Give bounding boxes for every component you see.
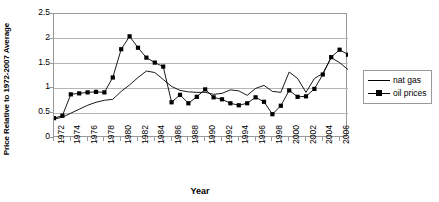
x-tick-label: 1996 xyxy=(258,125,267,144)
legend-label-nat-gas: nat gas xyxy=(391,75,421,86)
chart-legend: nat gas oil prices xyxy=(363,70,432,104)
data-point-marker xyxy=(245,101,249,105)
legend-item-oil-prices: oil prices xyxy=(367,87,427,100)
data-point-marker xyxy=(54,116,56,120)
x-tick-mark xyxy=(120,137,121,141)
legend-key-square-marker-icon xyxy=(367,88,391,99)
x-tick-mark xyxy=(305,137,306,141)
data-point-marker xyxy=(254,95,258,99)
x-axis-title: Year xyxy=(53,186,347,197)
data-point-marker xyxy=(312,87,316,91)
data-point-marker xyxy=(77,91,81,95)
x-tick-mark xyxy=(103,137,104,141)
y-axis-ticks: 00.511.522.5 xyxy=(0,0,50,202)
x-tick-mark xyxy=(229,137,230,141)
x-tick-mark xyxy=(213,137,214,141)
x-tick-mark xyxy=(221,137,222,141)
x-tick-mark xyxy=(238,137,239,141)
x-tick-label: 1978 xyxy=(107,125,116,144)
x-tick-mark xyxy=(204,137,205,141)
x-tick-mark xyxy=(313,137,314,141)
x-tick-label: 1986 xyxy=(174,125,183,144)
legend-label-oil-prices: oil prices xyxy=(391,88,427,99)
data-point-marker xyxy=(212,95,216,99)
x-tick-mark xyxy=(330,137,331,141)
x-tick-mark xyxy=(187,137,188,141)
x-tick-label: 1982 xyxy=(141,125,150,144)
plot-svg xyxy=(54,14,348,138)
data-point-marker xyxy=(102,90,106,94)
data-point-marker xyxy=(338,48,342,52)
y-tick-label: 1 xyxy=(4,82,50,91)
data-point-marker xyxy=(321,72,325,76)
y-tick-label: 0.5 xyxy=(4,107,50,116)
x-tick-label: 1992 xyxy=(225,125,234,144)
series-line-oil-prices xyxy=(54,36,348,118)
data-point-marker xyxy=(186,101,190,105)
data-point-marker xyxy=(228,101,232,105)
x-tick-label: 2004 xyxy=(325,125,334,144)
x-tick-mark xyxy=(347,137,348,141)
x-tick-mark xyxy=(87,137,88,141)
x-tick-mark xyxy=(61,137,62,141)
x-tick-mark xyxy=(145,137,146,141)
data-point-marker xyxy=(86,90,90,94)
x-tick-label: 1990 xyxy=(208,125,217,144)
x-tick-mark xyxy=(263,137,264,141)
x-tick-mark xyxy=(255,137,256,141)
data-point-marker xyxy=(161,64,165,68)
y-tick-label: 2.5 xyxy=(4,8,50,17)
x-tick-label: 1988 xyxy=(191,125,200,144)
x-tick-mark xyxy=(288,137,289,141)
data-point-marker xyxy=(304,94,308,98)
data-point-marker xyxy=(119,47,123,51)
data-point-marker xyxy=(346,53,348,57)
x-tick-mark xyxy=(78,137,79,141)
x-tick-mark xyxy=(95,137,96,141)
data-point-marker xyxy=(170,100,174,104)
data-point-marker xyxy=(237,103,241,107)
x-tick-mark xyxy=(129,137,130,141)
data-point-marker xyxy=(329,55,333,59)
legend-key-line-icon xyxy=(367,75,391,86)
data-point-marker xyxy=(153,61,157,65)
data-point-marker xyxy=(195,95,199,99)
x-tick-mark xyxy=(339,137,340,141)
plot-area xyxy=(53,13,347,137)
data-point-marker xyxy=(287,88,291,92)
x-tick-label: 1998 xyxy=(275,125,284,144)
x-tick-mark xyxy=(53,137,54,141)
data-point-marker xyxy=(144,56,148,60)
data-point-marker xyxy=(203,87,207,91)
x-tick-mark xyxy=(112,137,113,141)
x-tick-mark xyxy=(246,137,247,141)
x-tick-mark xyxy=(179,137,180,141)
x-tick-label: 1974 xyxy=(73,125,82,144)
x-tick-label: 1980 xyxy=(124,125,133,144)
x-tick-mark xyxy=(322,137,323,141)
x-tick-mark xyxy=(171,137,172,141)
data-point-marker xyxy=(60,114,64,118)
x-tick-label: 2006 xyxy=(342,125,351,144)
data-point-marker xyxy=(279,104,283,108)
x-tick-mark xyxy=(280,137,281,141)
x-tick-label: 1994 xyxy=(241,125,250,144)
data-point-marker xyxy=(94,90,98,94)
data-point-marker xyxy=(136,46,140,50)
data-point-marker xyxy=(270,112,274,116)
y-tick-label: 2 xyxy=(4,33,50,42)
x-tick-mark xyxy=(154,137,155,141)
legend-item-nat-gas: nat gas xyxy=(367,74,427,87)
x-tick-label: 2002 xyxy=(309,125,318,144)
data-point-marker xyxy=(111,75,115,79)
x-tick-label: 2000 xyxy=(292,125,301,144)
x-tick-mark xyxy=(162,137,163,141)
data-point-marker xyxy=(69,92,73,96)
x-tick-mark xyxy=(137,137,138,141)
x-tick-mark xyxy=(196,137,197,141)
x-tick-label: 1984 xyxy=(157,125,166,144)
x-tick-label: 1976 xyxy=(90,125,99,144)
y-tick-label: 0 xyxy=(4,132,50,141)
price-index-line-chart: Price Relative to 1972-2007 Average 00.5… xyxy=(0,0,439,202)
x-tick-mark xyxy=(297,137,298,141)
